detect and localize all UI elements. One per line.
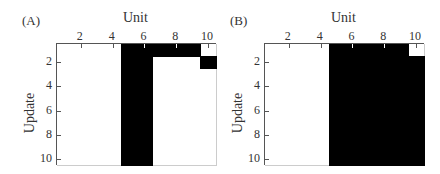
heatmap-cell bbox=[137, 92, 154, 105]
heatmap-cell bbox=[360, 141, 377, 154]
x-tick-label: 4 bbox=[317, 29, 323, 44]
heatmap-cell bbox=[360, 44, 377, 57]
heatmap-cell bbox=[360, 153, 377, 166]
x-tick-mark bbox=[416, 44, 417, 48]
heatmap-cell bbox=[121, 105, 138, 118]
x-tick-label: 10 bbox=[409, 29, 421, 44]
y-tick-mark bbox=[57, 135, 61, 136]
heatmap-cell bbox=[329, 56, 346, 69]
heatmap-cell bbox=[392, 117, 409, 130]
x-tick-label: 8 bbox=[380, 29, 386, 44]
x-tick-label: 2 bbox=[77, 29, 83, 44]
y-tick-label: 8 bbox=[244, 126, 260, 141]
heatmap-cell bbox=[376, 105, 393, 118]
heatmap-cell bbox=[121, 129, 138, 142]
heatmap-cell bbox=[376, 92, 393, 105]
heatmap-cell bbox=[121, 68, 138, 81]
y-tick-label: 2 bbox=[244, 54, 260, 69]
heatmap-cell bbox=[360, 68, 377, 81]
panel-a: (A) Unit Update 246810 246810 bbox=[0, 0, 220, 174]
heatmap-cell bbox=[137, 105, 154, 118]
y-tick-mark bbox=[265, 159, 269, 160]
x-tick-label: 2 bbox=[285, 29, 291, 44]
heatmap-cell bbox=[137, 141, 154, 154]
panel-label: (A) bbox=[22, 13, 40, 29]
heatmap-cell bbox=[329, 92, 346, 105]
y-tick-label: 4 bbox=[36, 78, 52, 93]
heatmap-cell bbox=[137, 129, 154, 142]
y-tick-label: 6 bbox=[36, 102, 52, 117]
heatmap-cell bbox=[121, 80, 138, 93]
heatmap-cell bbox=[137, 117, 154, 130]
x-tick-mark bbox=[144, 44, 145, 48]
panel-b: (B) Unit Update 246810 246810 bbox=[220, 0, 440, 174]
heatmap-cell bbox=[408, 105, 425, 118]
heatmap-cell bbox=[360, 56, 377, 69]
heatmap-cell bbox=[329, 129, 346, 142]
heatmap-cell bbox=[329, 80, 346, 93]
heatmap-cell bbox=[392, 105, 409, 118]
heatmap-cell bbox=[408, 117, 425, 130]
x-tick-label: 4 bbox=[109, 29, 115, 44]
y-tick-mark bbox=[57, 86, 61, 87]
heatmap-cell bbox=[360, 117, 377, 130]
heatmap-cell bbox=[408, 129, 425, 142]
heatmap-cell bbox=[329, 105, 346, 118]
heatmap-cell bbox=[121, 92, 138, 105]
heatmap-cell bbox=[392, 68, 409, 81]
heatmap-cell bbox=[345, 129, 362, 142]
heatmap-cell bbox=[121, 56, 138, 69]
heatmap-cell bbox=[376, 129, 393, 142]
heatmap-cell bbox=[360, 80, 377, 93]
heatmap-cell bbox=[121, 117, 138, 130]
heatmap-cell bbox=[345, 92, 362, 105]
x-tick-label: 6 bbox=[348, 29, 354, 44]
y-tick-label: 10 bbox=[244, 150, 260, 165]
heatmap-cell bbox=[329, 68, 346, 81]
heatmap-cell bbox=[345, 117, 362, 130]
heatmap-cell bbox=[392, 56, 409, 69]
y-tick-mark bbox=[57, 62, 61, 63]
x-tick-mark bbox=[81, 44, 82, 48]
heatmap-cell bbox=[408, 141, 425, 154]
x-tick-label: 6 bbox=[140, 29, 146, 44]
heatmap-cell bbox=[376, 68, 393, 81]
heatmap-cell bbox=[408, 80, 425, 93]
heatmap-cell bbox=[376, 56, 393, 69]
heatmap-cell bbox=[200, 56, 217, 69]
heatmap-cell bbox=[137, 68, 154, 81]
heatmap-cell bbox=[152, 44, 169, 57]
heatmap-cell bbox=[345, 56, 362, 69]
x-tick-mark bbox=[321, 44, 322, 48]
panel-label: (B) bbox=[230, 13, 247, 29]
heatmap-cell bbox=[345, 105, 362, 118]
heatmap-cell bbox=[329, 141, 346, 154]
x-tick-mark bbox=[113, 44, 114, 48]
heatmap-plot bbox=[56, 43, 216, 165]
x-tick-mark bbox=[208, 44, 209, 48]
heatmap-cell bbox=[345, 80, 362, 93]
heatmap-cell bbox=[376, 141, 393, 154]
y-tick-mark bbox=[265, 135, 269, 136]
x-tick-mark bbox=[176, 44, 177, 48]
y-tick-label: 4 bbox=[244, 78, 260, 93]
y-tick-mark bbox=[265, 111, 269, 112]
x-tick-label: 10 bbox=[201, 29, 213, 44]
heatmap-cell bbox=[392, 129, 409, 142]
heatmap-cell bbox=[408, 92, 425, 105]
heatmap-cell bbox=[345, 141, 362, 154]
heatmap-cell bbox=[392, 80, 409, 93]
y-tick-label: 6 bbox=[244, 102, 260, 117]
heatmap-cell bbox=[360, 129, 377, 142]
heatmap-cell bbox=[408, 56, 425, 69]
x-tick-mark bbox=[384, 44, 385, 48]
heatmap-cell bbox=[345, 68, 362, 81]
heatmap-cell bbox=[121, 153, 138, 166]
heatmap-cell bbox=[121, 44, 138, 57]
heatmap-plot bbox=[264, 43, 424, 165]
heatmap-cell bbox=[360, 92, 377, 105]
heatmap-cell bbox=[392, 153, 409, 166]
x-tick-mark bbox=[289, 44, 290, 48]
heatmap-cell bbox=[360, 105, 377, 118]
y-tick-mark bbox=[265, 86, 269, 87]
